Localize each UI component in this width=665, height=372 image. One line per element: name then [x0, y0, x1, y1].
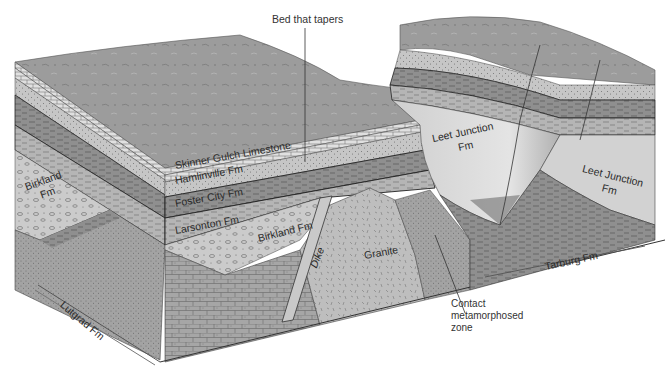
contact-line2: metamorphosed [451, 310, 523, 322]
contact-line3: zone [451, 322, 523, 334]
label-contact-metamorphosed-zone: Contact metamorphosed zone [451, 298, 523, 334]
contact-line1: Contact [451, 298, 523, 310]
label-bed-that-tapers: Bed that tapers [272, 13, 343, 25]
geologic-block-diagram [0, 0, 665, 372]
